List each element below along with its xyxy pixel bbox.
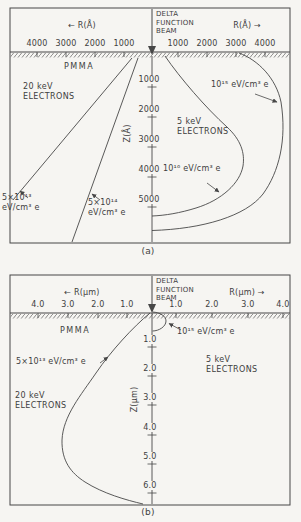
- r-tick-a: 1000: [111, 39, 137, 49]
- z-tick-a: 4000: [135, 165, 163, 174]
- z-tick-b: 1.0: [136, 335, 164, 344]
- r-tick-a: 3000: [223, 39, 249, 49]
- z-tick-a: 1000: [135, 75, 163, 84]
- r-tick-b: 2.0: [199, 300, 225, 310]
- panel-b-border: [10, 275, 290, 505]
- material-label-a: PMMA: [64, 62, 94, 72]
- beam-label-b: DELTA FUNCTION BEAM: [156, 277, 194, 303]
- r-tick-b: 4.0: [25, 300, 51, 310]
- z-tick-b: 2.0: [136, 364, 164, 373]
- z-tick-a: 3000: [135, 135, 163, 144]
- region-label-20kev-b: 20 keV ELECTRONS: [15, 391, 67, 411]
- region-label-5kev-b: 5 keV ELECTRONS: [206, 355, 258, 375]
- r-axis-label-right-b: R(μm) →: [217, 288, 277, 298]
- leader-arrow-a-1e15: [255, 94, 277, 102]
- leader-arrow-a-1e16: [207, 183, 219, 192]
- z-tick-b: 4.0: [136, 423, 164, 432]
- z-tick-a: 5000: [135, 195, 163, 204]
- material-label-b: PMMA: [60, 326, 90, 336]
- contour-label-a-5e14: 5×10¹⁴ eV/cm³ e: [88, 198, 126, 217]
- z-tick-b: 6.0: [136, 481, 164, 490]
- r-tick-a: 2000: [194, 39, 220, 49]
- r-tick-b: 1.0: [114, 300, 140, 310]
- r-tick-a: 3000: [53, 39, 79, 49]
- caption-a: (a): [133, 247, 163, 257]
- r-tick-b: 4.0: [270, 300, 296, 310]
- z-axis-label-b: Z(μm): [129, 383, 140, 417]
- z-axis-label-a: Z(Å): [122, 117, 133, 151]
- contour-label-b-1e15: 10¹⁵ eV/cm³ e: [177, 327, 235, 337]
- r-axis-label-left-b: ← R(μm): [52, 288, 112, 298]
- contour-label-b-5e13: 5×10¹³ eV/cm³ e: [16, 357, 86, 367]
- r-tick-a: 4000: [252, 39, 278, 49]
- region-label-20kev-a: 20 keV ELECTRONS: [23, 82, 75, 102]
- r-tick-a: 4000: [24, 39, 50, 49]
- contour-a-5e13: [13, 58, 132, 200]
- caption-b: (b): [133, 508, 163, 518]
- contour-label-a-5e13: 5×10¹³ eV/cm³ e: [2, 193, 40, 212]
- r-tick-b: 1.0: [163, 300, 189, 310]
- z-tick-b: 3.0: [136, 393, 164, 402]
- beam-label-a: DELTA FUNCTION BEAM: [156, 10, 194, 36]
- r-tick-b: 3.0: [55, 300, 81, 310]
- figure-electron-energy-contours: DELTA FUNCTION BEAM ← R(Å) R(Å) → 4000 3…: [0, 0, 301, 522]
- contour-label-a-1e15: 10¹⁵ eV/cm³ e: [211, 80, 269, 90]
- z-tick-a: 2000: [135, 105, 163, 114]
- r-axis-label-left-a: ← R(Å): [52, 21, 112, 31]
- r-tick-a: 2000: [82, 39, 108, 49]
- region-label-5kev-a: 5 keV ELECTRONS: [177, 117, 229, 137]
- contour-label-a-1e16: 10¹⁶ eV/cm³ e: [163, 164, 221, 174]
- panel-b-beam-arrow-icon: [148, 304, 156, 313]
- r-tick-b: 3.0: [235, 300, 261, 310]
- r-tick-a: 1000: [165, 39, 191, 49]
- r-axis-label-right-a: R(Å) →: [217, 21, 277, 31]
- z-tick-b: 5.0: [136, 452, 164, 461]
- r-tick-b: 2.0: [85, 300, 111, 310]
